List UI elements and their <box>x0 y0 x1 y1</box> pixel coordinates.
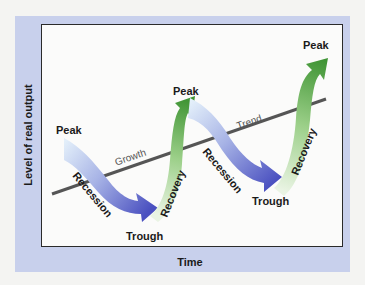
peak-label-1: Peak <box>56 124 83 136</box>
recovery-label-1: Recovery <box>158 168 188 219</box>
growth-label: Growth <box>113 147 147 168</box>
business-cycle-diagram: Growth Trend Peak Peak Peak Trough Troug… <box>0 0 365 285</box>
trough-label-2: Trough <box>252 195 290 207</box>
peak-label-3: Peak <box>303 39 330 51</box>
peak-label-2: Peak <box>173 85 200 97</box>
trend-label: Trend <box>235 112 263 131</box>
trough-label-1: Trough <box>126 230 164 242</box>
recovery-arrow-2 <box>274 58 328 196</box>
